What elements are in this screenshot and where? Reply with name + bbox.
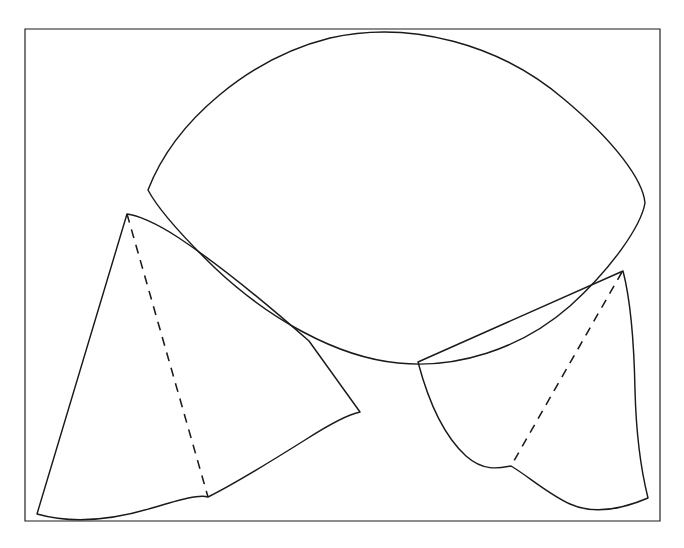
figure-canvas [0,0,684,548]
figure-background [0,0,684,548]
line-drawing-svg [0,0,684,548]
